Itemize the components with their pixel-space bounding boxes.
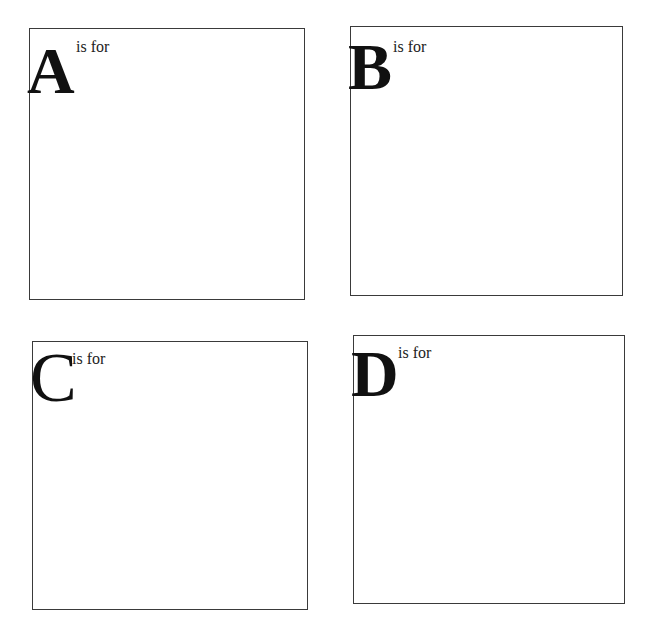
is-for-label-d: is for	[398, 344, 431, 362]
letter-card-c: C is for	[32, 341, 308, 610]
is-for-label-c: is for	[72, 350, 105, 368]
is-for-label-a: is for	[76, 38, 109, 56]
big-letter-d: D	[351, 346, 399, 402]
big-letter-b: B	[348, 39, 392, 95]
letter-card-a: A is for	[29, 28, 305, 300]
big-letter-c: C	[30, 350, 77, 406]
letter-card-d: D is for	[353, 335, 625, 604]
letter-card-b: B is for	[350, 26, 623, 296]
is-for-label-b: is for	[393, 38, 426, 56]
big-letter-a: A	[27, 43, 75, 99]
